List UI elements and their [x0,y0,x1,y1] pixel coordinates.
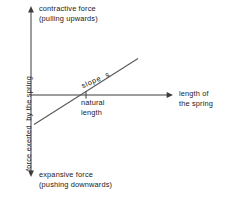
contractive-force-label: contractive force(pulling upwards) [39,4,98,23]
natural-length-line-1: natural [81,98,105,107]
expansive-force-label: expansive force(pushing downwards) [39,170,112,189]
y-axis-up-arrow-icon [28,6,34,12]
expansive-force-line-1: expansive force [39,170,93,179]
spring-force-diagram: contractive force(pulling upwards) expan… [0,0,237,199]
y-axis-label: force exerted by the spring [24,21,34,171]
natural-length-line-2: length [81,108,102,117]
x-axis-label-line-1: length of [179,89,209,98]
x-axis-label: length ofthe spring [179,89,213,108]
contractive-force-line-1: contractive force [39,4,96,13]
contractive-force-line-2: (pulling upwards) [39,14,98,23]
natural-length-annotation: naturallength [81,98,105,117]
x-axis-right-arrow-icon [167,92,173,98]
x-axis-label-line-2: the spring [179,99,213,108]
expansive-force-line-2: (pushing downwards) [39,180,112,189]
y-axis-down-arrow-icon [28,171,34,177]
